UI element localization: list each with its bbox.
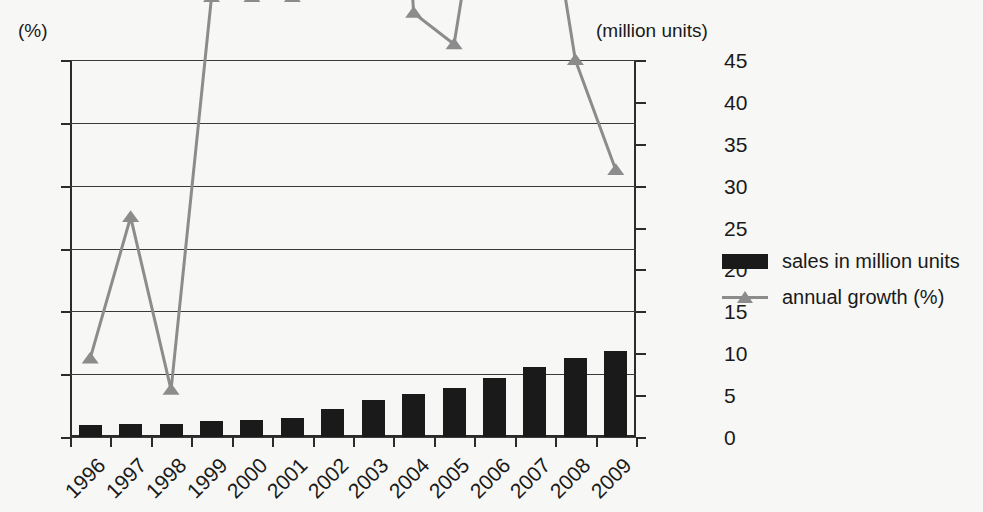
chart-legend: sales in million units annual growth (%)	[722, 243, 972, 315]
left-tick-mark	[61, 186, 70, 188]
growth-marker-2001	[284, 0, 301, 2]
bar-2007	[523, 367, 546, 437]
gridline	[70, 186, 636, 187]
bar-2000	[240, 420, 263, 437]
right-tick-mark	[636, 144, 646, 146]
x-tick-mark	[313, 437, 315, 447]
right-tick-mark	[636, 353, 646, 355]
bar-1997	[119, 424, 142, 437]
x-tick-mark	[191, 437, 193, 447]
gridline	[70, 249, 636, 250]
legend-label-sales: sales in million units	[782, 250, 960, 273]
right-tick-mark	[636, 102, 646, 104]
right-tick-label-0: 0	[724, 427, 736, 448]
legend-item-annual-growth: annual growth (%)	[722, 279, 972, 315]
left-axis-unit-caption: (%)	[18, 20, 48, 42]
bar-2002	[321, 409, 344, 437]
x-tick-mark	[70, 437, 72, 447]
right-tick-label-30: 30	[724, 175, 747, 196]
x-tick-mark	[555, 437, 557, 447]
right-tick-mark	[636, 228, 646, 230]
x-tick-mark	[232, 437, 234, 447]
right-tick-label-40: 40	[724, 91, 747, 112]
growth-marker-2005	[446, 37, 463, 49]
legend-line-triangle-swatch-icon	[722, 286, 768, 308]
bar-1999	[200, 421, 223, 437]
right-axis-unit-caption: (million units)	[596, 20, 708, 42]
x-axis-label-1996: 1996	[55, 454, 109, 508]
right-tick-mark	[636, 395, 646, 397]
bar-1996	[79, 425, 102, 437]
plot-area: 024681012 051015202530354045 19961997199…	[70, 60, 636, 437]
right-tick-label-35: 35	[724, 133, 747, 154]
x-tick-mark	[151, 437, 153, 447]
bar-2009	[604, 351, 627, 437]
x-tick-mark	[272, 437, 274, 447]
left-tick-mark	[61, 123, 70, 125]
left-tick-mark	[61, 60, 70, 62]
x-tick-mark	[596, 437, 598, 447]
gridline	[70, 123, 636, 124]
gridline	[70, 311, 636, 312]
legend-item-sales: sales in million units	[722, 243, 972, 279]
x-tick-mark	[636, 437, 638, 447]
legend-bar-swatch-icon	[722, 250, 768, 272]
bar-2004	[402, 394, 425, 437]
left-tick-mark	[61, 374, 70, 376]
left-tick-mark	[61, 437, 70, 439]
x-tick-mark	[434, 437, 436, 447]
right-tick-label-45: 45	[724, 50, 747, 71]
bar-2005	[443, 388, 466, 437]
right-tick-mark	[636, 186, 646, 188]
legend-label-annual-growth: annual growth (%)	[782, 286, 944, 309]
right-tick-label-10: 10	[724, 343, 747, 364]
left-tick-mark	[61, 311, 70, 313]
x-tick-mark	[515, 437, 517, 447]
right-tick-mark	[636, 60, 646, 62]
growth-marker-2004	[405, 6, 422, 18]
right-tick-mark	[636, 311, 646, 313]
right-tick-label-25: 25	[724, 217, 747, 238]
bar-2006	[483, 378, 506, 437]
right-tick-label-5: 5	[724, 385, 736, 406]
chart-screenshot: (%) (million units) 024681012 0510152025…	[0, 0, 983, 512]
x-tick-mark	[474, 437, 476, 447]
x-axis-label-2009: 2009	[580, 454, 634, 508]
x-tick-mark	[353, 437, 355, 447]
bar-2008	[564, 358, 587, 437]
right-tick-mark	[636, 269, 646, 271]
gridline	[70, 60, 636, 61]
x-tick-mark	[110, 437, 112, 447]
bar-1998	[160, 424, 183, 437]
x-tick-mark	[393, 437, 395, 447]
growth-marker-1999	[203, 0, 220, 2]
bar-2003	[362, 400, 385, 437]
growth-marker-2000	[243, 0, 260, 2]
gridline	[70, 374, 636, 375]
bar-2001	[281, 418, 304, 437]
left-tick-mark	[61, 249, 70, 251]
